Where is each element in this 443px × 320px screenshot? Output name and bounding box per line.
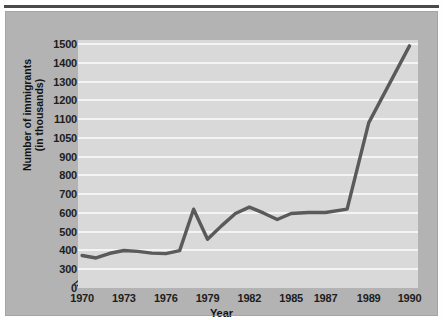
x-axis-tick-label: 1973 — [112, 292, 136, 304]
x-axis-tick-label: 1976 — [154, 292, 178, 304]
x-axis-title: Year — [5, 307, 438, 319]
plot-area — [78, 40, 418, 288]
x-axis-tick-label: 1970 — [70, 292, 94, 304]
x-axis-tick-label: 1989 — [357, 292, 381, 304]
y-axis-tick-label: 1300 — [53, 76, 77, 88]
x-axis-tick-label: 1990 — [398, 292, 422, 304]
y-axis-tick-label: 1050 — [53, 132, 77, 144]
y-axis-tick-label: 1100 — [54, 113, 77, 125]
top-divider-rule — [4, 5, 439, 8]
x-axis-tick-labels: 197019731976197919821985198719891990 — [5, 292, 438, 308]
y-axis-tick-label: 600 — [59, 207, 77, 219]
y-axis-tick-label: 1500 — [53, 38, 77, 50]
immigrants-series-line — [82, 46, 409, 258]
y-axis-tick-label: 900 — [59, 151, 77, 163]
y-axis-tick-label: 800 — [59, 169, 77, 181]
y-axis-tick-label: 1200 — [53, 94, 77, 106]
y-axis-tick-label: 400 — [59, 244, 77, 256]
data-line-chart — [78, 40, 418, 288]
x-axis-tick-label: 1979 — [196, 292, 220, 304]
y-axis-tick-label: 500 — [59, 226, 77, 238]
y-axis-tick-label: 1400 — [53, 57, 77, 69]
x-axis-tick-label: 1985 — [279, 292, 303, 304]
chart-page: Number of immigrants (in thousands) 0300… — [0, 0, 443, 320]
y-axis-tick-labels: 0300400500600700800900105011001200130014… — [39, 32, 77, 294]
y-axis-tick-label: 700 — [59, 188, 77, 200]
x-axis-tick-label: 1987 — [314, 292, 338, 304]
figure-panel: Number of immigrants (in thousands) 0300… — [5, 11, 438, 316]
y-axis-title-line1: Number of immigrants — [21, 40, 33, 190]
x-axis-tick-label: 1982 — [238, 292, 262, 304]
